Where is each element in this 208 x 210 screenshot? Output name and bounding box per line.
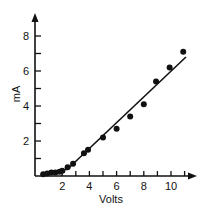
data-point [85,147,91,153]
data-point [65,164,71,170]
data-point [167,65,173,71]
x-ticks: 246810 [49,171,185,192]
x-axis-arrow-icon [188,173,197,180]
data-point [59,168,65,174]
data-point [180,49,186,55]
x-tick-label: 8 [141,180,147,192]
y-axis-title: mA [10,85,22,102]
data-point [70,161,76,167]
data-point [100,135,106,141]
data-point [153,79,159,85]
y-ticks: 2468 [23,30,41,159]
y-tick-label: 2 [23,135,29,147]
y-tick-label: 8 [23,30,29,42]
y-tick-label: 4 [23,100,29,112]
data-point [127,114,133,120]
iv-scatter-chart: 246810 2468 Volts mA [0,0,208,210]
x-tick-label: 2 [59,180,65,192]
axes [32,13,198,180]
data-points [40,49,186,178]
data-point [114,126,120,132]
y-axis-arrow-icon [32,13,39,22]
x-tick-label: 4 [86,180,92,192]
data-point [141,101,147,107]
x-axis-title: Volts [99,193,123,205]
y-tick-label: 6 [23,65,29,77]
x-tick-label: 10 [165,180,177,192]
fit-line [42,57,186,176]
x-tick-label: 6 [114,180,120,192]
